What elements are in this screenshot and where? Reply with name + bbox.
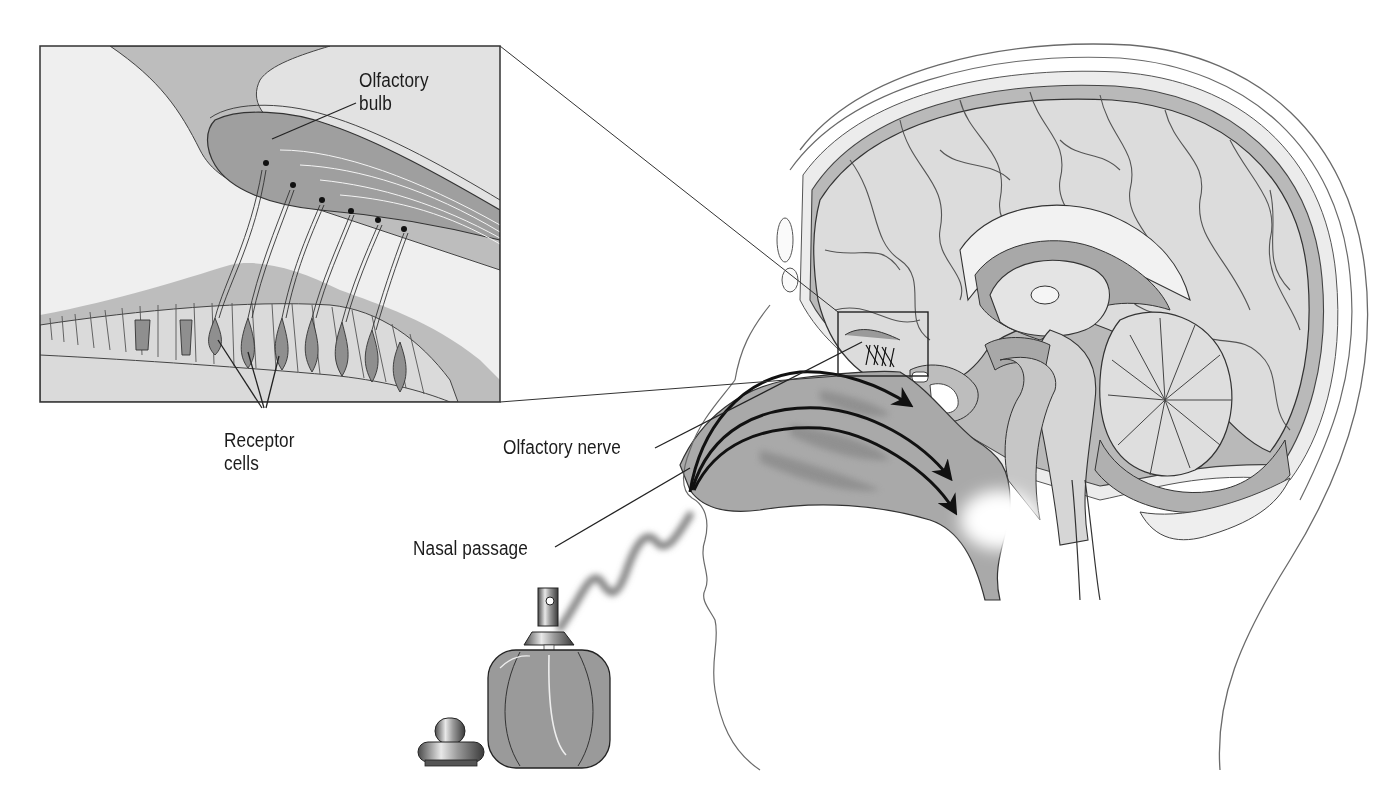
label-nasal-passage-text: Nasal passage [413, 537, 528, 560]
label-olfactory-nerve-text: Olfactory nerve [503, 436, 621, 459]
perfume-bottle [488, 588, 610, 768]
label-olfactory-bulb-line2: bulb [359, 92, 429, 115]
label-olfactory-bulb: Olfactory bulb [359, 69, 429, 115]
label-receptor-cells-line1: Receptor [224, 429, 294, 452]
label-receptor-cells: Receptor cells [224, 429, 294, 475]
label-nasal-passage: Nasal passage [413, 537, 528, 560]
olfactory-diagram [0, 0, 1388, 802]
bottle-cap [418, 718, 484, 766]
label-olfactory-bulb-line1: Olfactory [359, 69, 429, 92]
nasal-passage-leader [555, 468, 690, 547]
label-olfactory-nerve: Olfactory nerve [503, 436, 621, 459]
label-receptor-cells-line2: cells [224, 452, 294, 475]
inset-magnified-view [40, 46, 500, 402]
